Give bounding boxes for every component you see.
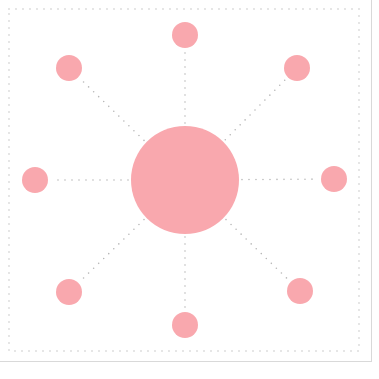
node-top (172, 22, 198, 48)
node-top-left (56, 55, 82, 81)
node-top-right (284, 55, 310, 81)
spoke-top-left (81, 79, 144, 140)
spoke-right (242, 179, 318, 180)
node-bottom-left (56, 279, 82, 305)
spoke-top-right (225, 79, 285, 139)
node-bottom (172, 312, 198, 338)
node-right (321, 166, 347, 192)
hub-node (131, 126, 239, 234)
hub-spoke-diagram (0, 0, 379, 379)
spoke-bottom-left (81, 220, 144, 281)
node-bottom-right (287, 278, 313, 304)
spoke-bottom-right (226, 220, 288, 280)
node-left (22, 167, 48, 193)
